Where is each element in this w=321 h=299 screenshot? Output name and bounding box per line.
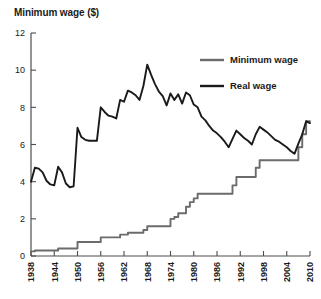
y-tick-label-4: 4 xyxy=(20,177,25,187)
x-tick-label-1944: 1944 xyxy=(50,262,60,282)
x-tick-label-1962: 1962 xyxy=(119,262,129,282)
chart-legend: Minimum wageReal wage xyxy=(200,54,298,91)
x-axis-tick-labels: 1938194419501956196219681974198019861992… xyxy=(26,262,315,282)
y-tick-label-12: 12 xyxy=(15,28,25,38)
legend-label-real-wage: Real wage xyxy=(230,80,276,91)
y-tick-label-10: 10 xyxy=(15,65,25,75)
x-tick-label-2010: 2010 xyxy=(305,262,315,282)
x-tick-label-1986: 1986 xyxy=(212,262,222,282)
y-axis-tick-labels: 024681012 xyxy=(15,28,25,261)
y-tick-label-0: 0 xyxy=(20,251,25,261)
x-tick-label-1974: 1974 xyxy=(166,262,176,282)
legend-label-minimum-wage: Minimum wage xyxy=(230,54,298,65)
x-tick-label-1980: 1980 xyxy=(189,262,199,282)
x-tick-label-1998: 1998 xyxy=(259,262,269,282)
y-axis-ticks xyxy=(31,33,36,256)
series-group xyxy=(31,65,310,252)
chart-page: Minimum wage ($) 024681012 1938194419501… xyxy=(0,0,321,299)
x-tick-label-2004: 2004 xyxy=(282,262,292,282)
x-tick-label-1938: 1938 xyxy=(26,262,36,282)
wage-line-chart: 024681012 193819441950195619621968197419… xyxy=(0,0,321,299)
x-tick-label-1968: 1968 xyxy=(143,262,153,282)
x-axis-ticks xyxy=(31,251,310,256)
x-tick-label-1956: 1956 xyxy=(96,262,106,282)
y-tick-label-6: 6 xyxy=(20,140,25,150)
x-tick-label-1992: 1992 xyxy=(236,262,246,282)
y-tick-label-8: 8 xyxy=(20,103,25,113)
x-tick-label-1950: 1950 xyxy=(73,262,83,282)
y-tick-label-2: 2 xyxy=(20,214,25,224)
